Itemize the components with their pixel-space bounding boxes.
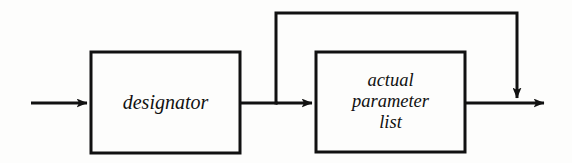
diagram-canvas [0,0,572,163]
node-designator-box [91,52,240,153]
edge-bypass-loop [276,13,517,105]
syntax-diagram: designator actual parameter list [0,0,572,163]
node-actual-parameter-list-box [316,52,465,152]
